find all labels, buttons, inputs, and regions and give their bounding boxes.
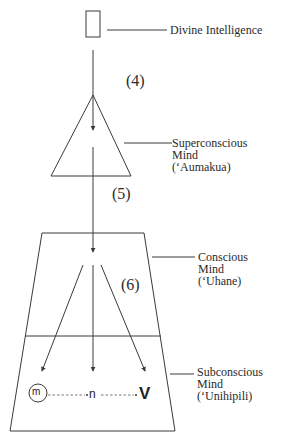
superconscious-label-line3: (‘Aumakua) [172, 161, 231, 173]
dot-before-v [135, 394, 137, 396]
symbol-v: V [139, 384, 150, 404]
conscious-label-line3: (‘Uhane) [198, 275, 241, 287]
divine-intelligence-label: Divine Intelligence [170, 24, 262, 36]
dot-before-n [86, 394, 88, 396]
step-5-label: (5) [112, 185, 131, 203]
divine-intelligence-box [86, 11, 100, 37]
arrow-to-m [42, 265, 83, 371]
step-4-label: (4) [126, 72, 145, 90]
superconscious-triangle [51, 95, 131, 176]
symbol-m: m [32, 386, 40, 397]
symbol-n: n [89, 387, 96, 401]
subconscious-label-line3: (‘Unihipili) [197, 390, 252, 402]
step-6-label: (6) [121, 276, 140, 294]
